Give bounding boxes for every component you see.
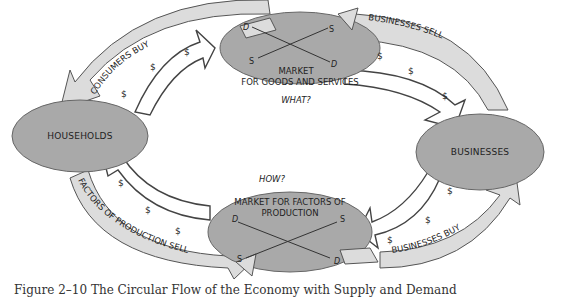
goods-market-label-2: FOR GOODS AND SERVICES: [241, 77, 358, 87]
money-symbol: $: [377, 51, 383, 61]
goods-demand-label-end: D: [331, 60, 337, 69]
goods-demand-label-start: D: [243, 23, 249, 32]
money-symbol: $: [184, 47, 190, 57]
factor-market-label-2: PRODUCTION: [261, 208, 318, 218]
money-symbol: $: [175, 226, 181, 236]
goods-supply-label-end: S: [329, 25, 334, 34]
money-symbol: $: [447, 186, 453, 196]
money-symbol: $: [121, 89, 127, 99]
money-symbol: $: [425, 215, 431, 225]
households-label: HOUSEHOLDS: [47, 131, 112, 141]
goods-supply-label-start: S: [249, 57, 254, 66]
factor-market-question: HOW?: [259, 174, 285, 184]
businesses-label: BUSINESSES: [451, 147, 509, 157]
money-symbol: $: [387, 235, 393, 245]
goods-market-label-1: MARKET: [278, 66, 314, 76]
factor-demand-label-start: D: [232, 215, 238, 224]
money-symbol: $: [150, 62, 156, 72]
goods-market-question: WHAT?: [281, 95, 311, 105]
factor-market-label-1: MARKET FOR FACTORS OF: [234, 197, 345, 207]
money-symbol: $: [408, 66, 414, 76]
figure-caption: Figure 2–10 The Circular Flow of the Eco…: [14, 283, 457, 297]
money-symbol: $: [118, 178, 124, 188]
factor-demand-label-end: D: [334, 257, 340, 266]
factor-supply-label-start: S: [237, 255, 242, 264]
money-symbol: $: [145, 205, 151, 215]
money-symbol: $: [442, 91, 448, 101]
circular-flow-diagram: D D S S D D S S HOUSEHOLDS BUSINESSES MA…: [0, 0, 562, 299]
factor-supply-label-end: S: [340, 215, 345, 224]
